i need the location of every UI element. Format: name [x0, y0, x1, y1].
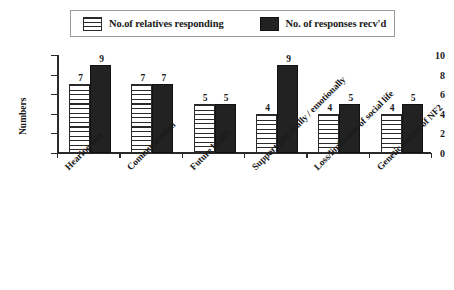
- bar-value-label: 5: [216, 93, 237, 103]
- x-axis-tick: [369, 153, 370, 158]
- bar-value-label: 7: [153, 73, 174, 83]
- y-axis-title: Numbers: [18, 121, 28, 135]
- bar-value-label: 5: [340, 93, 361, 103]
- legend-label-relatives-responding: No.of relatives responding: [109, 18, 224, 29]
- chart-legend: No.of relatives responding No. of respon…: [70, 10, 395, 37]
- x-axis-tick: [431, 153, 432, 158]
- legend-label-responses-received: No. of responses recv'd: [286, 18, 387, 29]
- bar-value-label: 5: [403, 93, 424, 103]
- legend-entry-relatives-responding: No.of relatives responding: [83, 11, 224, 36]
- bar-value-label: 9: [278, 54, 299, 64]
- x-axis-tick: [57, 153, 58, 158]
- bar-value-label: 5: [195, 93, 216, 103]
- x-axis-tick: [306, 153, 307, 158]
- legend-entry-responses-received: No. of responses recv'd: [260, 11, 387, 36]
- x-axis-tick: [182, 153, 183, 158]
- x-axis-category-labels: Hearing lossCommunicationFuture healthSu…: [0, 159, 454, 289]
- x-axis-tick: [244, 153, 245, 158]
- chart-plot-area: Numbers 0246810 797755494545 Hearing los…: [0, 45, 454, 290]
- bar-value-label: 4: [257, 103, 278, 113]
- solid-swatch-icon: [260, 17, 279, 31]
- bar-value-label: 7: [70, 73, 91, 83]
- bar-value-label: 9: [91, 54, 112, 64]
- hatch-swatch-icon: [83, 17, 102, 31]
- x-axis-tick: [119, 153, 120, 158]
- bar-value-label: 7: [132, 73, 153, 83]
